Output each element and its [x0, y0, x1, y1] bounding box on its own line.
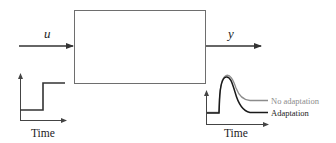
block-diagram: u y Time No adaptation Adaptation Time — [0, 0, 336, 143]
output-label: y — [226, 26, 234, 41]
output-signal: y — [206, 26, 261, 46]
input-plot-xlabel: Time — [31, 127, 55, 139]
legend-adaptation: Adaptation — [271, 108, 310, 118]
legend-no-adaptation: No adaptation — [271, 96, 320, 106]
input-label: u — [44, 26, 51, 41]
system-block — [75, 11, 206, 84]
no-adaptation-curve — [207, 75, 268, 112]
input-step-plot: Time — [20, 74, 66, 139]
input-signal: u — [19, 26, 73, 46]
adaptation-curve — [207, 77, 268, 113]
output-response-plot: No adaptation Adaptation Time — [206, 75, 320, 139]
output-plot-xlabel: Time — [224, 127, 248, 139]
step-signal-curve — [20, 83, 65, 110]
